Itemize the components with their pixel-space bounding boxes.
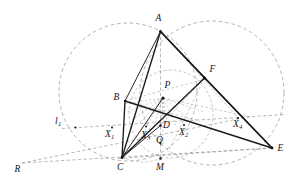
label-B: B: [114, 93, 120, 103]
p-ray-11: [163, 98, 204, 112]
label-C: C: [117, 163, 123, 173]
dot-E: [271, 147, 274, 150]
dot-X3: [145, 126, 147, 128]
geometry-canvas: [0, 0, 308, 186]
dot-F: [203, 77, 206, 80]
label-Q: Q: [156, 136, 163, 146]
label-X3-base: X: [141, 130, 147, 140]
label-l1-sub: 1: [58, 120, 61, 127]
arc-C-to-M: [122, 158, 161, 163]
dot-P: [162, 97, 165, 100]
label-X2-base: X: [179, 127, 185, 137]
segment-F-to-M: [168, 78, 205, 152]
label-R: R: [15, 165, 21, 175]
label-X1-sub: 1: [111, 133, 114, 140]
dot-l1: [75, 127, 77, 129]
edge-A-to-F: [161, 32, 205, 79]
circumcircle-left-icon: [59, 23, 197, 161]
label-A: A: [156, 14, 162, 24]
p-ray-10: [163, 98, 190, 120]
dot-D: [159, 124, 161, 126]
ray-R-to-E: [22, 148, 272, 163]
label-X4-base: X: [233, 119, 239, 129]
baseline-C-M-E: [118, 148, 272, 159]
label-X4-sub: 4: [239, 123, 242, 130]
label-X3-sub: 3: [147, 134, 150, 141]
dot-B: [124, 100, 126, 102]
dot-A: [159, 30, 162, 33]
label-X3: X3: [141, 131, 150, 141]
dot-C: [121, 156, 124, 159]
dot-M: [159, 157, 162, 160]
label-F: F: [210, 65, 216, 75]
label-l1: l1: [55, 117, 61, 127]
label-X2: X2: [179, 128, 188, 138]
label-E: E: [278, 144, 284, 154]
label-P: P: [165, 81, 171, 91]
dot-X1: [111, 127, 113, 129]
label-X1: X1: [105, 130, 114, 140]
label-X1-base: X: [105, 129, 111, 139]
label-X2-sub: 2: [185, 131, 188, 138]
label-M: M: [156, 163, 164, 173]
geometry-figure: A B C D E F M P Q R l1 X1 X2 X3 X4: [0, 0, 308, 186]
label-X4: X4: [233, 120, 242, 130]
label-D: D: [163, 121, 170, 131]
